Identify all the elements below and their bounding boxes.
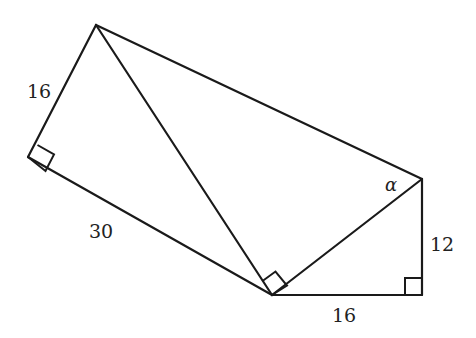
right-angle-marker-e: [405, 278, 422, 295]
segment-cd: [272, 179, 422, 295]
segment-bc: [28, 157, 272, 295]
label-de: 12: [430, 233, 454, 255]
label-bc: 30: [89, 220, 113, 242]
label-ce: 16: [332, 304, 356, 326]
geometry-diagram: 16 30 12 16 α: [0, 0, 476, 338]
label-angle-alpha: α: [385, 174, 397, 195]
label-ab: 16: [27, 80, 51, 102]
